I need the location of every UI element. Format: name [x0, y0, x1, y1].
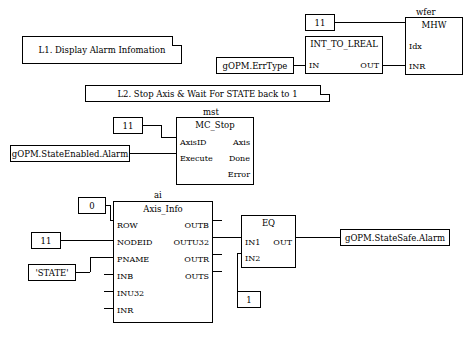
wire-conv-out-to-mhw	[383, 65, 405, 66]
stub-ai-outs	[213, 271, 222, 272]
stub-ai-outb	[213, 220, 222, 221]
block-title-axis-info: Axis_Info	[114, 204, 212, 214]
pin-ai-inb: INB	[117, 272, 133, 281]
block-instance-wfer: wfer	[416, 7, 436, 17]
block-title-int-to-lreal: INT_TO_LREAL	[306, 39, 382, 49]
block-instance-mst: mst	[203, 107, 219, 117]
pin-mst-axisid: AxisID	[180, 138, 207, 147]
value-const-11-top-text: 11	[315, 18, 326, 28]
pin-ai-outs: OUTS	[185, 272, 209, 281]
pin-eq-in1: IN1	[245, 238, 260, 247]
wire-const0-to-row	[110, 220, 113, 221]
ladder-diagram-canvas: L1. Display Alarm Infomation L2. Stop Ax…	[0, 0, 470, 342]
value-const-1: 1	[237, 291, 261, 308]
value-state-string-text: 'STATE'	[35, 268, 68, 278]
page-fold-icon	[320, 85, 330, 95]
wire-const11-to-conv	[335, 22, 405, 23]
block-title-mhw: MHW	[406, 20, 462, 30]
wire-eq-out-to-statesafe	[296, 237, 340, 238]
value-gopm-stateenabled-alarm-text: gOPM.StateEnabled.Alarm	[12, 149, 128, 159]
wire-errtype-to-conv-in	[294, 65, 305, 66]
block-title-eq: EQ	[242, 218, 295, 228]
value-gopm-errtype-text: gOPM.ErrType	[223, 61, 288, 71]
function-block-mc-stop: MC_Stop AxisID Axis Execute Done Error	[176, 117, 254, 185]
wire-state-h	[76, 272, 90, 273]
block-instance-ai: ai	[154, 190, 162, 200]
value-gopm-stateenabled-alarm: gOPM.StateEnabled.Alarm	[10, 145, 130, 162]
pin-ai-outu32: OUTU32	[173, 238, 209, 247]
value-const-0: 0	[78, 197, 106, 214]
pin-ai-outb: OUTB	[184, 221, 209, 230]
pin-mst-axis: Axis	[233, 138, 250, 147]
pin-conv-out: OUT	[360, 61, 379, 70]
wire-state-v	[90, 257, 91, 272]
value-state-string: 'STATE'	[28, 264, 76, 281]
page-fold-icon	[172, 36, 182, 46]
function-block-axis-info: Axis_Info ROW OUTB NODEID OUTU32 PNAME O…	[113, 201, 213, 323]
wire-const1-to-eq-in2	[237, 253, 241, 254]
pin-mhw-inr: INR	[409, 62, 425, 71]
function-block-eq: EQ IN1 OUT IN2	[241, 215, 296, 268]
value-const-0-text: 0	[89, 201, 94, 211]
function-block-int-to-lreal: INT_TO_LREAL IN OUT	[305, 36, 383, 74]
pin-ai-nodeid: NODEID	[117, 238, 152, 247]
pin-eq-out: OUT	[273, 238, 292, 247]
value-const-1-text: 1	[246, 295, 251, 305]
value-gopm-statesafe-alarm-text: gOPM.StateSafe.Alarm	[345, 233, 445, 243]
stub-ai-inb	[104, 274, 113, 275]
comment-l1-text: L1. Display Alarm Infomation	[39, 45, 166, 55]
wire-const11-mst-h	[143, 125, 161, 126]
value-const-11-mst-text: 11	[123, 121, 134, 131]
wire-const1-v	[237, 253, 238, 299]
wire-state-to-pname	[90, 257, 113, 258]
pin-mst-done: Done	[229, 154, 250, 163]
wire-stateenabled-to-execute	[130, 153, 176, 154]
value-gopm-statesafe-alarm: gOPM.StateSafe.Alarm	[340, 229, 450, 246]
wire-const11-mst-v	[161, 125, 162, 137]
function-block-mhw: MHW Idx INR	[405, 17, 463, 75]
value-const-11-ai: 11	[31, 232, 61, 249]
stub-ai-inu32	[104, 291, 113, 292]
stub-ai-outr	[213, 254, 222, 255]
wire-const0-v	[110, 205, 111, 220]
comment-box-l2: L2. Stop Axis & Wait For STATE back to 1	[85, 85, 330, 102]
stub-ai-inr	[104, 308, 113, 309]
pin-conv-in: IN	[309, 61, 319, 70]
wire-const11-ai-to-nodeid	[61, 240, 113, 241]
pin-mst-error: Error	[228, 170, 250, 179]
value-const-11-ai-text: 11	[41, 236, 52, 246]
pin-ai-inu32: INU32	[117, 289, 144, 298]
pin-mst-execute: Execute	[180, 154, 213, 163]
wire-const11-mst-axisid	[161, 137, 176, 138]
pin-ai-row: ROW	[117, 221, 138, 230]
comment-l2-text: L2. Stop Axis & Wait For STATE back to 1	[117, 89, 297, 99]
comment-box-l1: L1. Display Alarm Infomation	[22, 36, 182, 64]
pin-ai-inr: INR	[117, 306, 133, 315]
pin-mhw-idx: Idx	[409, 42, 422, 51]
wire-outu32-to-eq-in1	[213, 237, 241, 238]
value-const-11-mst: 11	[113, 117, 143, 134]
pin-eq-in2: IN2	[245, 254, 260, 263]
pin-ai-pname: PNAME	[117, 255, 149, 264]
block-title-mc-stop: MC_Stop	[177, 120, 253, 130]
pin-ai-outr: OUTR	[184, 255, 209, 264]
value-const-11-top: 11	[305, 14, 335, 31]
value-gopm-errtype: gOPM.ErrType	[216, 57, 294, 74]
